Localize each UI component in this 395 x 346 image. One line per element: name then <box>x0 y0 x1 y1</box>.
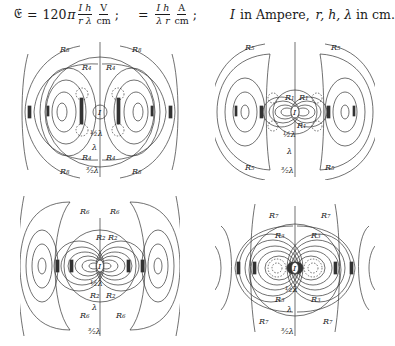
svg-text:R5: R5 <box>324 163 335 172</box>
field-diagram-top-right: I R1 R1 R1 R5 R5 R5 R5 ½λ λ ³⁄₂λ <box>215 42 375 180</box>
svg-text:R3: R3 <box>310 295 321 304</box>
svg-text:R2: R2 <box>107 233 118 242</box>
svg-text:R4: R4 <box>105 153 116 162</box>
svg-text:R8: R8 <box>59 167 70 176</box>
svg-text:½λ: ½λ <box>285 285 298 294</box>
separator: ; <box>193 7 197 22</box>
svg-text:R4: R4 <box>81 63 92 72</box>
svg-text:λ: λ <box>91 303 97 312</box>
svg-text:³⁄₂λ: ³⁄₂λ <box>281 327 294 336</box>
magnetic-fraction: I h λ r <box>155 3 170 25</box>
units-note: I in Ampere, r, h, λ in cm. <box>230 0 395 28</box>
magnetic-numerator: I h <box>155 3 170 15</box>
svg-text:λ: λ <box>286 305 292 314</box>
svg-text:³⁄₂λ: ³⁄₂λ <box>88 327 101 336</box>
svg-text:R4: R4 <box>105 63 116 72</box>
svg-text:R8: R8 <box>131 167 142 176</box>
electric-unit-num: V <box>99 3 108 15</box>
svg-text:λ: λ <box>286 147 292 156</box>
magnetic-unit: A cm <box>174 3 188 25</box>
svg-text:R5: R5 <box>330 43 341 52</box>
magnetic-denominator: λ r <box>156 15 170 26</box>
pi-symbol: π <box>67 7 75 22</box>
svg-text:R2: R2 <box>89 291 100 300</box>
electric-field-formula: 𝔈 = 120 π I h r λ V cm ; <box>14 0 119 28</box>
electric-unit: V cm <box>96 3 110 25</box>
svg-text:½λ: ½λ <box>283 130 296 139</box>
electric-field-symbol: 𝔈 <box>14 6 22 22</box>
svg-text:½λ: ½λ <box>90 279 103 288</box>
svg-text:R6: R6 <box>109 207 120 216</box>
svg-text:R5: R5 <box>244 43 255 52</box>
svg-text:λ: λ <box>91 143 97 152</box>
field-diagram-bottom-right: I R7 R7 R3 R3 R3 R3 R7 R7 ½λ λ ³⁄₂λ <box>215 196 375 340</box>
length-vars: r, h, λ <box>316 7 352 22</box>
svg-text:R8: R8 <box>131 45 142 54</box>
coefficient: 120 <box>42 7 66 22</box>
svg-text:R8: R8 <box>59 45 70 54</box>
svg-text:½λ: ½λ <box>90 129 103 138</box>
electric-fraction: I h r λ <box>78 3 93 25</box>
svg-text:R4: R4 <box>81 153 92 162</box>
electric-unit-den: cm <box>96 15 110 26</box>
svg-text:³⁄₂λ: ³⁄₂λ <box>86 166 99 175</box>
svg-text:R1: R1 <box>284 93 295 102</box>
svg-text:R5: R5 <box>244 163 255 172</box>
svg-text:R6: R6 <box>115 311 126 320</box>
cm-text: in cm. <box>356 7 395 22</box>
field-diagram-bottom-left: I R2 R2 R2 R2 R6 R6 R6 R6 ½λ λ ³⁄₂λ <box>20 196 180 340</box>
magnetic-unit-den: cm <box>174 15 188 26</box>
field-formulas: 𝔈 = 120 π I h r λ V cm ; 𝔋 = I h λ r A c… <box>0 0 383 28</box>
magnetic-field-formula: 𝔋 = I h λ r A cm ; <box>133 0 197 28</box>
svg-text:R1: R1 <box>298 93 309 102</box>
equals-sign: = <box>138 7 148 22</box>
svg-text:I: I <box>97 108 102 117</box>
ampere-text: in Ampere, <box>240 7 310 22</box>
current-symbol: I <box>230 7 235 22</box>
electric-numerator: I h <box>78 3 93 15</box>
svg-text:R2: R2 <box>95 233 106 242</box>
svg-text:R7: R7 <box>322 317 333 326</box>
svg-text:R1: R1 <box>296 121 307 130</box>
field-diagram-top-left: I R8 R8 R4 R4 R4 R4 R8 R8 ½λ λ ³⁄₂λ <box>20 42 180 180</box>
svg-text:R6: R6 <box>79 207 90 216</box>
equals-sign: = <box>27 7 37 22</box>
svg-text:R3: R3 <box>274 231 285 240</box>
svg-text:R3: R3 <box>310 231 321 240</box>
electric-denominator: r λ <box>78 15 92 26</box>
svg-text:R3: R3 <box>274 295 285 304</box>
svg-text:R7: R7 <box>268 211 279 220</box>
magnetic-unit-num: A <box>177 3 186 15</box>
svg-text:R6: R6 <box>79 311 90 320</box>
separator: ; <box>115 7 119 22</box>
svg-text:R7: R7 <box>258 317 269 326</box>
svg-text:R2: R2 <box>105 291 116 300</box>
svg-text:³⁄₂λ: ³⁄₂λ <box>281 166 294 175</box>
svg-text:R7: R7 <box>320 211 331 220</box>
